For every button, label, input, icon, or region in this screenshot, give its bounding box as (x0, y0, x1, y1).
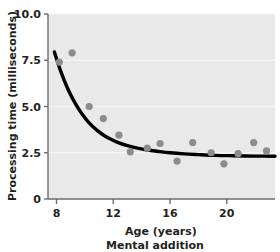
data-point (56, 59, 63, 66)
x-tick-label: 16 (162, 207, 178, 220)
chart-svg: 02.55.07.510.0 8121620 Processing time (… (0, 0, 280, 252)
chart-figure: 02.55.07.510.0 8121620 Processing time (… (0, 0, 280, 252)
data-point (144, 145, 151, 152)
data-point (115, 132, 122, 139)
data-point (220, 160, 227, 167)
chart-caption: Mental addition (106, 239, 204, 252)
data-point (189, 139, 196, 146)
x-axis-label: Age (years) (125, 225, 197, 238)
data-point (263, 147, 270, 154)
y-tick-label: 5.0 (22, 101, 42, 114)
x-axis: 8121620 (48, 199, 275, 220)
x-tick-label: 12 (106, 207, 121, 220)
y-tick-label: 2.5 (22, 147, 42, 160)
data-point (127, 148, 134, 155)
data-point (86, 103, 93, 110)
y-tick-label: 0 (33, 193, 41, 206)
data-point (156, 140, 163, 147)
data-point (174, 157, 181, 164)
data-point (69, 49, 76, 56)
data-point (235, 150, 242, 157)
x-tick-label: 8 (53, 207, 61, 220)
data-point (100, 115, 107, 122)
data-point (208, 149, 215, 156)
x-tick-label: 20 (219, 207, 235, 220)
data-point (250, 139, 257, 146)
y-tick-label: 7.5 (22, 54, 42, 67)
y-axis-label: Processing time (milliseconds) (6, 11, 19, 201)
